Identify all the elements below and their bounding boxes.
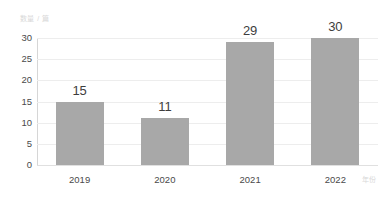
x-axis-tick-label: 2020 [125,175,205,185]
x-axis-tick-label: 2021 [210,175,290,185]
x-axis-baseline [37,165,378,166]
bar[interactable] [311,38,359,165]
y-axis-tick-label: 15 [2,97,32,107]
x-axis-tick-label: 2019 [40,175,120,185]
y-axis-tick-label: 25 [2,54,32,64]
bar-chart: 数量 / 篇 年份 051015202530 15201911202029202… [0,0,386,197]
y-axis-tick-labels: 051015202530 [0,38,32,165]
y-axis-tick-label: 20 [2,76,32,86]
y-axis-tick-label: 30 [2,33,32,43]
y-axis-tick-label: 10 [2,118,32,128]
y-axis-tick-label: 5 [2,139,32,149]
y-axis-title: 数量 / 篇 [20,15,49,22]
bar[interactable] [141,118,189,165]
bar-value-label: 30 [295,20,375,33]
bar[interactable] [226,42,274,165]
bar-value-label: 15 [40,84,120,97]
bar[interactable] [56,102,104,166]
bar-value-label: 29 [210,24,290,37]
x-axis-tick-label: 2022 [295,175,375,185]
plot-area [37,38,378,165]
y-axis-tick-label: 0 [2,160,32,170]
bar-value-label: 11 [125,100,205,113]
